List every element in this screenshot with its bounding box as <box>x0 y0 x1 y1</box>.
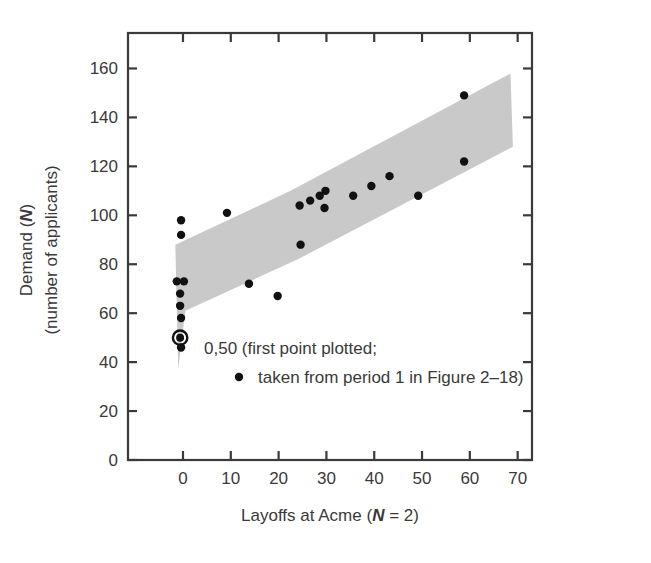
annotation-bullet-icon <box>235 373 243 381</box>
x-tick-label-70: 70 <box>508 469 527 488</box>
scatter-plot: 010203040506070 020406080100120140160 0,… <box>0 0 651 563</box>
x-tick-label-60: 60 <box>460 469 479 488</box>
data-point <box>177 216 185 224</box>
data-point <box>306 196 314 204</box>
y-axis-title-line-2: (number of applicants) <box>42 165 61 334</box>
data-point <box>177 314 185 322</box>
data-point <box>176 302 184 310</box>
y-tick-label-80: 80 <box>99 255 118 274</box>
y-tick-label-60: 60 <box>99 304 118 323</box>
x-tick-label-20: 20 <box>269 469 288 488</box>
y-axis-title-line-1: Demand (N) <box>17 204 36 297</box>
data-point <box>320 204 328 212</box>
data-point <box>321 187 329 195</box>
x-tick-label-40: 40 <box>365 469 384 488</box>
y-tick-label-140: 140 <box>90 108 118 127</box>
y-tick-label-20: 20 <box>99 402 118 421</box>
y-tick-label-120: 120 <box>90 157 118 176</box>
data-point <box>177 343 185 351</box>
figure-canvas: 010203040506070 020406080100120140160 0,… <box>0 0 651 563</box>
x-axis-title: Layoffs at Acme (N = 2) <box>241 506 419 525</box>
annotation-line-2: taken from period 1 in Figure 2–18) <box>258 368 524 387</box>
data-point <box>349 192 357 200</box>
y-tick-label-40: 40 <box>99 353 118 372</box>
data-point <box>177 231 185 239</box>
data-point <box>180 277 188 285</box>
data-point <box>296 240 304 248</box>
y-tick-label-0: 0 <box>109 451 118 470</box>
data-point <box>367 182 375 190</box>
data-point-highlighted <box>176 334 184 342</box>
data-point <box>385 172 393 180</box>
data-point <box>173 277 181 285</box>
x-tick-label-0: 0 <box>178 469 187 488</box>
y-tick-label-100: 100 <box>90 206 118 225</box>
x-tick-label-10: 10 <box>221 469 240 488</box>
data-point <box>245 280 253 288</box>
data-point <box>273 292 281 300</box>
data-point <box>460 157 468 165</box>
data-point <box>223 209 231 217</box>
y-tick-label-160: 160 <box>90 59 118 78</box>
data-point <box>295 201 303 209</box>
data-point <box>460 91 468 99</box>
x-tick-label-50: 50 <box>413 469 432 488</box>
data-point <box>176 289 184 297</box>
annotation-line-1: 0,50 (first point plotted; <box>204 339 377 358</box>
x-tick-label-30: 30 <box>317 469 336 488</box>
data-point <box>414 192 422 200</box>
